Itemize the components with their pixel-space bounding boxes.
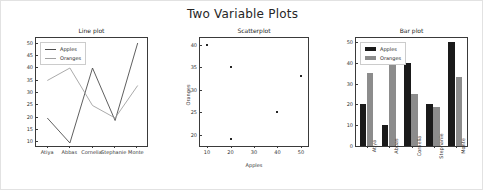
scatterplot-points bbox=[200, 38, 308, 146]
scatterplot-xtick: 50 bbox=[298, 146, 304, 155]
figure-canvas: Two Variable Plots Line plot Apples Oran… bbox=[0, 0, 483, 190]
bar-oranges bbox=[456, 77, 463, 146]
scatterplot-xtick: 20 bbox=[227, 146, 233, 155]
scatter-point bbox=[276, 111, 278, 113]
apples-line-swatch-icon bbox=[45, 49, 56, 50]
bar-plot-title: Bar plot bbox=[356, 27, 467, 34]
scatterplot-xtick: 30 bbox=[251, 146, 257, 155]
scatterplot-ytick: 30 bbox=[191, 87, 200, 93]
line-plot-ytick: 25 bbox=[27, 101, 36, 107]
scatterplot-ytick: 25 bbox=[191, 109, 200, 115]
line-plot-ytick: 15 bbox=[27, 126, 36, 132]
bar-oranges bbox=[367, 73, 374, 146]
line-plot-ytick: 35 bbox=[27, 77, 36, 83]
line-plot-axes: Line plot Apples Oranges 101520253035404… bbox=[35, 37, 148, 147]
line-series-oranges bbox=[47, 68, 137, 118]
bar-apples bbox=[448, 42, 455, 146]
bar-plot-xtick: Stephanie bbox=[434, 133, 444, 158]
line-plot-xtick: Stephanie bbox=[101, 146, 126, 155]
legend-label-apples: Apples bbox=[60, 46, 77, 52]
line-plot-xtick: Cornelia bbox=[81, 146, 102, 155]
bar-plot-xtick: Monte bbox=[456, 138, 466, 154]
scatterplot-axes: Scatterplot Apples Oranges 2025303540102… bbox=[199, 37, 309, 147]
bar-plot-ytick: 40 bbox=[347, 60, 356, 66]
oranges-line-swatch-icon bbox=[45, 58, 56, 59]
legend-item-oranges: Oranges bbox=[45, 55, 81, 61]
bar-apples bbox=[426, 104, 433, 146]
scatterplot-ylabel: Oranges bbox=[185, 80, 191, 110]
line-plot-ytick: 50 bbox=[27, 40, 36, 46]
line-plot-ytick: 20 bbox=[27, 114, 36, 120]
bar-oranges bbox=[389, 63, 396, 146]
bar-plot-xtick: Atiya bbox=[367, 140, 377, 153]
line-plot-xtick: Atiya bbox=[41, 146, 54, 155]
scatterplot-ytick: 40 bbox=[191, 42, 200, 48]
legend-item-apples: Apples bbox=[365, 46, 401, 52]
scatterplot-title: Scatterplot bbox=[200, 27, 308, 34]
legend-label-oranges: Oranges bbox=[380, 55, 401, 61]
legend-label-apples: Apples bbox=[380, 46, 397, 52]
bar-plot-ytick: 30 bbox=[347, 81, 356, 87]
scatterplot-xtick: 40 bbox=[274, 146, 280, 155]
scatterplot-xtick: 10 bbox=[204, 146, 210, 155]
line-plot-ytick: 45 bbox=[27, 52, 36, 58]
scatter-point bbox=[206, 44, 208, 46]
scatter-point bbox=[230, 138, 232, 140]
scatterplot-ytick: 20 bbox=[191, 132, 200, 138]
scatter-point bbox=[230, 66, 232, 68]
panel-scatterplot: Scatterplot Apples Oranges 2025303540102… bbox=[162, 1, 323, 190]
legend-label-oranges: Oranges bbox=[60, 55, 81, 61]
line-plot-ytick: 40 bbox=[27, 64, 36, 70]
line-plot-ytick: 10 bbox=[27, 138, 36, 144]
bar-plot-axes: Bar plot Apples Oranges 01020304050Atiya… bbox=[355, 37, 468, 147]
bar-apples bbox=[404, 63, 411, 146]
legend-item-apples: Apples bbox=[45, 46, 81, 52]
line-plot-title: Line plot bbox=[36, 27, 147, 34]
bar-apples bbox=[360, 104, 367, 146]
bar-plot-ytick: 50 bbox=[347, 39, 356, 45]
scatter-point bbox=[300, 75, 302, 77]
panel-line-plot: Line plot Apples Oranges 101520253035404… bbox=[1, 1, 162, 190]
bar-plot-xtick: Cornelia bbox=[412, 136, 422, 157]
line-plot-xtick: Monte bbox=[128, 146, 144, 155]
line-plot-ytick: 30 bbox=[27, 89, 36, 95]
line-plot-legend: Apples Oranges bbox=[40, 42, 86, 65]
bar-plot-ytick: 20 bbox=[347, 101, 356, 107]
oranges-bar-swatch-icon bbox=[365, 56, 376, 60]
apples-bar-swatch-icon bbox=[365, 47, 376, 51]
scatterplot-xlabel: Apples bbox=[200, 162, 308, 168]
legend-item-oranges: Oranges bbox=[365, 55, 401, 61]
bar-plot-xtick: Abbas bbox=[389, 138, 399, 153]
bar-plot-ytick: 0 bbox=[350, 143, 356, 149]
bar-plot-legend: Apples Oranges bbox=[360, 42, 406, 65]
bar-apples bbox=[382, 125, 389, 146]
scatterplot-ytick: 35 bbox=[191, 64, 200, 70]
panel-bar-plot: Bar plot Apples Oranges 01020304050Atiya… bbox=[323, 1, 483, 190]
bar-plot-ytick: 10 bbox=[347, 122, 356, 128]
line-plot-xtick: Abbas bbox=[62, 146, 77, 155]
